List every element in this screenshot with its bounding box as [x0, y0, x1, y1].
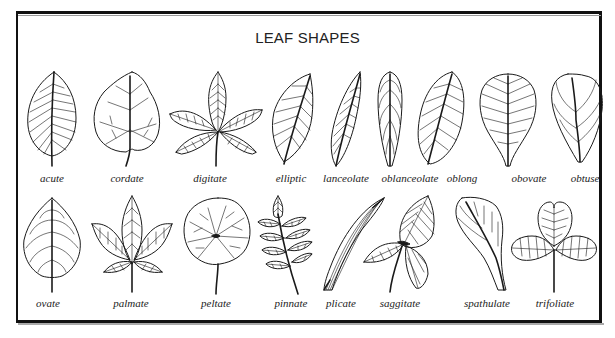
frame-inner-line-bottom [18, 323, 604, 325]
ovate-label: ovate [36, 297, 60, 309]
cordate-leaf-icon [92, 70, 162, 166]
digitate-leaf-icon [168, 70, 264, 166]
obtuse-label: obtuse [571, 172, 600, 184]
trifoliate-leaf-icon [510, 196, 598, 292]
digitate-label: digitate [193, 172, 227, 184]
saggitate-leaf-icon [362, 194, 438, 292]
oblong-leaf-icon [416, 70, 466, 168]
oblanceolate-label: oblanceolate [382, 172, 439, 184]
spathulate-leaf-icon [454, 196, 510, 292]
trifoliate-label: trifoliate [536, 297, 575, 309]
obovate-leaf-icon [478, 70, 538, 168]
saggitate-label: saggitate [380, 297, 420, 309]
plicate-label: plicate [326, 297, 356, 309]
elliptic-label: elliptic [276, 172, 307, 184]
frame-inner-line-top [18, 15, 601, 16]
obovate-label: obovate [512, 172, 547, 184]
ovate-leaf-icon [22, 196, 82, 292]
peltate-leaf-icon [182, 196, 252, 294]
oblanceolate-leaf-icon [376, 70, 404, 168]
oblong-label: oblong [447, 172, 478, 184]
cordate-label: cordate [110, 172, 143, 184]
lanceolate-label: lanceolate [323, 172, 369, 184]
acute-label: acute [40, 172, 64, 184]
spathulate-label: spathulate [464, 297, 510, 309]
elliptic-leaf-icon [270, 72, 314, 168]
palmate-leaf-icon [90, 194, 174, 292]
acute-leaf-icon [26, 70, 78, 166]
peltate-label: peltate [201, 297, 231, 309]
palmate-label: palmate [113, 297, 148, 309]
pinnate-leaf-icon [256, 194, 312, 294]
obtuse-leaf-icon [548, 72, 606, 168]
diagram-title: LEAF SHAPES [0, 29, 615, 46]
lanceolate-leaf-icon [330, 70, 364, 168]
pinnate-label: pinnate [275, 297, 308, 309]
